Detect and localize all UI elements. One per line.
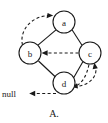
figure-container: a b c d null A. (0, 0, 108, 123)
node-b[interactable]: b (19, 42, 41, 64)
arrowhead-b-to-a (47, 13, 54, 18)
solid-edge-b-d (39, 61, 56, 77)
solid-edge-c-d (74, 62, 84, 79)
solid-edge-a-c (72, 30, 82, 45)
node-c-label: c (88, 49, 92, 59)
node-b-label: b (28, 49, 33, 59)
arrowhead-d-to-null (29, 91, 35, 96)
dashed-edge-b-to-a (22, 16, 49, 46)
node-c[interactable]: c (79, 42, 101, 64)
node-d[interactable]: d (53, 72, 75, 94)
node-a[interactable]: a (53, 11, 75, 33)
node-d-label: d (62, 79, 67, 89)
graph-canvas: a b c d null A. (0, 0, 108, 123)
null-label: null (2, 89, 17, 99)
solid-edge-a-b (38, 30, 56, 45)
figure-caption: A. (49, 108, 59, 119)
arrowhead-c-to-b (42, 50, 48, 55)
node-a-label: a (62, 18, 66, 28)
